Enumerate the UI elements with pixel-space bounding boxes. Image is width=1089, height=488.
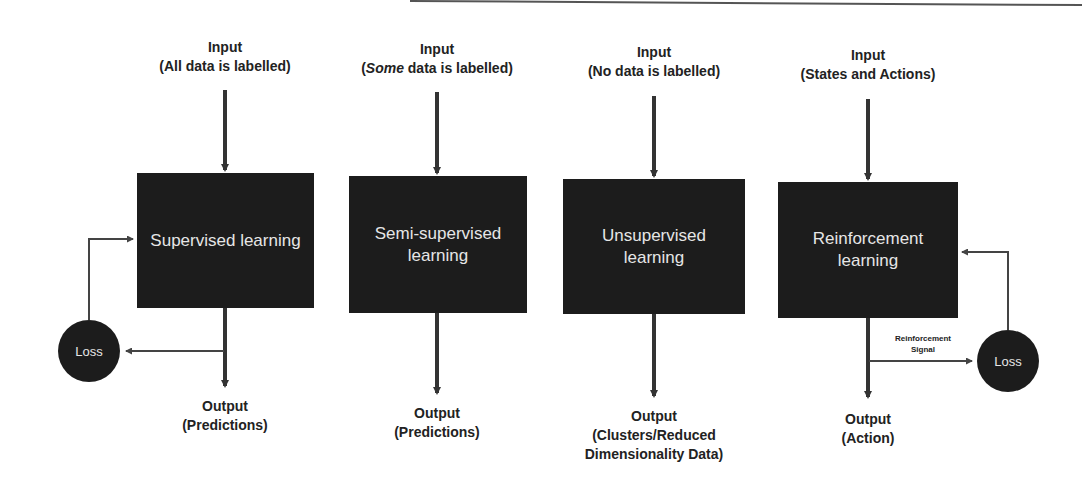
- supervised-learning-box: Supervised learning: [137, 173, 314, 308]
- input-detail: (States and Actions): [801, 65, 936, 84]
- output-title: Output: [585, 407, 723, 426]
- input-title: Input: [159, 38, 290, 57]
- input-detail: (No data is labelled): [588, 62, 720, 81]
- semi-supervised-learning-box: Semi-supervised learning: [349, 176, 527, 313]
- box-label-line1: Semi-supervised: [375, 223, 502, 245]
- box-label-line2: learning: [602, 247, 706, 269]
- box-label-line2: learning: [813, 250, 924, 272]
- box-label-line1: Unsupervised: [602, 225, 706, 247]
- input-detail-emphasis: Some: [366, 60, 404, 76]
- edge-label-line2: Signal: [895, 344, 951, 355]
- unsupervised-output-label: Output (Clusters/Reduced Dimensionality …: [585, 407, 723, 464]
- output-detail: (Action): [842, 429, 895, 448]
- reinforcement-output-label: Output (Action): [842, 410, 895, 448]
- output-detail-line2: Dimensionality Data): [585, 445, 723, 464]
- output-title: Output: [182, 397, 268, 416]
- unsupervised-input-label: Input (No data is labelled): [588, 43, 720, 81]
- edge-label-line1: Reinforcement: [895, 333, 951, 344]
- input-title: Input: [801, 46, 936, 65]
- semi-supervised-output-label: Output (Predictions): [394, 404, 480, 442]
- box-label-line1: Reinforcement: [813, 228, 924, 250]
- input-title: Input: [588, 43, 720, 62]
- output-title: Output: [842, 410, 895, 429]
- input-detail: (Some data is labelled): [361, 59, 513, 78]
- supervised-loss-node: Loss: [58, 320, 120, 382]
- input-title: Input: [361, 40, 513, 59]
- output-detail-line1: (Clusters/Reduced: [585, 426, 723, 445]
- output-detail: (Predictions): [394, 423, 480, 442]
- loss-label: Loss: [75, 344, 102, 359]
- loss-label: Loss: [994, 354, 1021, 369]
- output-detail: (Predictions): [182, 416, 268, 435]
- reinforcement-loss-node: Loss: [977, 330, 1039, 392]
- supervised-output-label: Output (Predictions): [182, 397, 268, 435]
- reinforcement-input-label: Input (States and Actions): [801, 46, 936, 84]
- reinforcement-learning-box: Reinforcement learning: [778, 182, 958, 318]
- box-label: Supervised learning: [150, 230, 300, 252]
- input-detail: (All data is labelled): [159, 57, 290, 76]
- reinforcement-signal-label: Reinforcement Signal: [895, 333, 951, 355]
- box-label-line2: learning: [375, 245, 502, 267]
- supervised-input-label: Input (All data is labelled): [159, 38, 290, 76]
- unsupervised-learning-box: Unsupervised learning: [563, 179, 745, 314]
- output-title: Output: [394, 404, 480, 423]
- semi-supervised-input-label: Input (Some data is labelled): [361, 40, 513, 78]
